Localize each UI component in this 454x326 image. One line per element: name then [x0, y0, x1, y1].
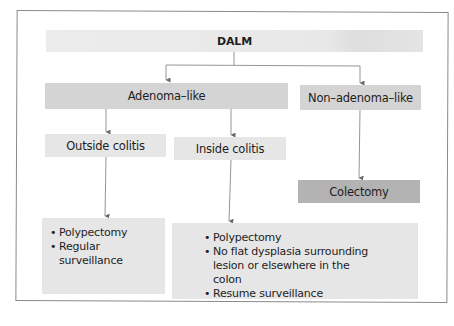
outside-colitis-node: Outside colitis	[45, 134, 166, 157]
outcome-item: Resume surveillance	[204, 287, 374, 301]
outside-colitis-outcome: Polypectomy Regular surveillance	[42, 218, 165, 294]
outcome-item: Polypectomy	[50, 226, 165, 240]
non-adenoma-like-label: Non–adenoma–like	[308, 91, 413, 105]
colectomy-label: Colectomy	[329, 185, 388, 199]
inside-colitis-node: Inside colitis	[174, 137, 286, 160]
outcome-item: Regular surveillance	[50, 240, 165, 268]
non-adenoma-like-node: Non–adenoma–like	[300, 85, 421, 110]
inside-colitis-outcome: Polypectomy No flat dysplasia surroundin…	[172, 223, 418, 299]
outcome-item: Polypectomy	[204, 231, 374, 245]
colectomy-node: Colectomy	[298, 180, 420, 203]
adenoma-like-label: Adenoma–like	[128, 89, 206, 103]
outcome-item: No flat dysplasia surrounding lesion or …	[204, 245, 374, 287]
inside-colitis-label: Inside colitis	[196, 142, 265, 156]
outside-colitis-label: Outside colitis	[66, 139, 145, 153]
dalm-label: DALM	[217, 35, 252, 48]
adenoma-like-node: Adenoma–like	[45, 83, 288, 109]
dalm-node: DALM	[46, 30, 423, 52]
